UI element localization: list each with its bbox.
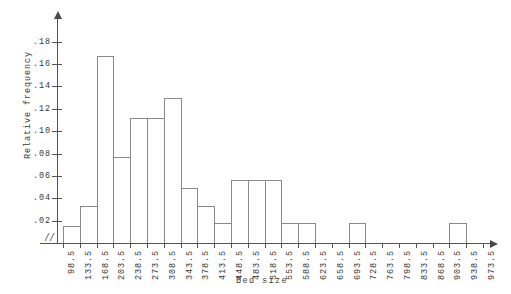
histogram-bar [197, 206, 215, 243]
histogram-bar [97, 56, 115, 243]
x-axis-tick [416, 243, 417, 248]
x-axis-tick-label: 168.5 [101, 250, 111, 280]
x-axis-line [40, 243, 492, 244]
x-axis-tick-label: 833.5 [420, 250, 430, 280]
x-axis-tick [63, 243, 64, 248]
histogram-bar [231, 180, 249, 243]
histogram-bar [248, 180, 266, 243]
x-axis-tick-label: 203.5 [117, 250, 127, 280]
y-axis-tick-label: .02 [11, 216, 51, 226]
x-axis-tick-label: 973.5 [487, 250, 497, 280]
x-axis-tick-label: 623.5 [319, 250, 329, 280]
histogram-bar [147, 118, 165, 243]
y-axis-tick [52, 221, 62, 222]
x-axis-tick [483, 243, 484, 248]
y-axis-tick-label: .18 [11, 37, 51, 47]
x-axis-arrow-icon [490, 240, 498, 248]
histogram-bar [265, 180, 283, 243]
x-axis-tick-label: 693.5 [353, 250, 363, 280]
x-axis-tick-label: 798.5 [403, 250, 413, 280]
y-axis-tick [52, 154, 62, 155]
histogram-bar [214, 223, 232, 243]
y-axis-tick [52, 42, 62, 43]
x-axis-tick [265, 243, 266, 248]
x-axis-tick-label: 763.5 [386, 250, 396, 280]
x-axis-tick [130, 243, 131, 248]
x-axis-tick [214, 243, 215, 248]
y-axis-tick-label: .06 [11, 171, 51, 181]
x-axis-tick [365, 243, 366, 248]
x-axis-tick-label: 728.5 [369, 250, 379, 280]
x-axis-tick-label: 98.5 [67, 250, 77, 274]
x-axis-tick-label: 133.5 [84, 250, 94, 280]
y-axis-tick [52, 198, 62, 199]
x-axis-tick [315, 243, 316, 248]
x-axis-tick [80, 243, 81, 248]
x-axis-tick-label: 903.5 [453, 250, 463, 280]
x-axis-tick-label: 518.5 [269, 250, 279, 280]
x-axis-tick [97, 243, 98, 248]
y-axis-tick [52, 131, 62, 132]
histogram-bar [113, 157, 131, 243]
y-axis-tick-label: .14 [11, 81, 51, 91]
y-axis-tick [52, 109, 62, 110]
x-axis-tick [181, 243, 182, 248]
y-axis-tick [52, 64, 62, 65]
x-axis-tick [248, 243, 249, 248]
histogram-chart: // Relative frequency Bed size .02.04.06… [0, 0, 511, 294]
histogram-bar [281, 223, 299, 243]
y-axis-arrow-icon [54, 11, 62, 19]
histogram-bar [181, 188, 199, 243]
x-axis-tick [164, 243, 165, 248]
x-axis-tick [433, 243, 434, 248]
x-axis-tick [349, 243, 350, 248]
x-axis-tick-label: 413.5 [218, 250, 228, 280]
y-axis-tick-label: .10 [11, 126, 51, 136]
x-axis-tick-label: 588.5 [302, 250, 312, 280]
x-axis-tick [382, 243, 383, 248]
histogram-bar [298, 223, 316, 243]
x-axis-tick [399, 243, 400, 248]
histogram-bar [63, 226, 81, 243]
x-axis-tick [281, 243, 282, 248]
x-axis-tick [332, 243, 333, 248]
y-axis-tick [52, 86, 62, 87]
x-axis-tick [197, 243, 198, 248]
x-axis-tick-label: 868.5 [437, 250, 447, 280]
x-axis-tick-label: 308.5 [168, 250, 178, 280]
x-axis-break-symbol: // [44, 234, 54, 244]
y-axis-tick [52, 176, 62, 177]
y-axis-tick-label: .08 [11, 149, 51, 159]
x-axis-tick [113, 243, 114, 248]
y-axis-tick-label: .12 [11, 104, 51, 114]
x-axis-tick [449, 243, 450, 248]
x-axis-tick [466, 243, 467, 248]
x-axis-tick-label: 343.5 [185, 250, 195, 280]
x-axis-tick-label: 273.5 [151, 250, 161, 280]
x-axis-tick-label: 448.5 [235, 250, 245, 280]
histogram-bar [164, 98, 182, 243]
x-axis-tick [231, 243, 232, 248]
x-axis-tick-label: 938.5 [470, 250, 480, 280]
x-axis-tick-label: 378.5 [201, 250, 211, 280]
histogram-bar [80, 206, 98, 243]
x-axis-tick [298, 243, 299, 248]
histogram-bar [130, 118, 148, 243]
histogram-bar [349, 223, 367, 243]
y-axis-tick-label: .04 [11, 193, 51, 203]
x-axis-tick-label: 483.5 [252, 250, 262, 280]
x-axis-tick-label: 658.5 [336, 250, 346, 280]
x-axis-tick-label: 553.5 [285, 250, 295, 280]
y-axis-tick-label: .16 [11, 59, 51, 69]
x-axis-tick [147, 243, 148, 248]
x-axis-tick-label: 238.5 [134, 250, 144, 280]
histogram-bar [449, 223, 467, 243]
